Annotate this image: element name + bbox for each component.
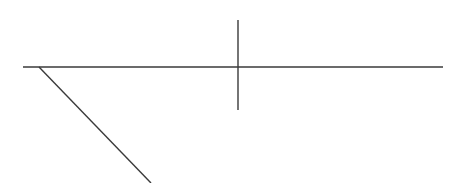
- diagonal-line: [39, 67, 151, 183]
- line-drawing: [0, 0, 473, 183]
- diagram-canvas: [0, 0, 473, 183]
